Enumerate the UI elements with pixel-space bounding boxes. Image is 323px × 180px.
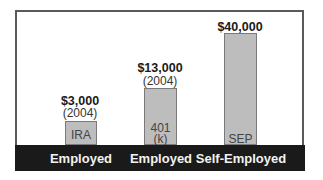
bar-label-ira: IRA: [66, 129, 96, 141]
value-label-sep: $40,000: [217, 20, 262, 34]
category-label-1: Employed: [50, 151, 112, 166]
bar-ira: IRA: [65, 121, 97, 145]
bar-401k: 401 (k): [144, 88, 177, 145]
bar-label-sep: SEP: [225, 133, 256, 145]
category-label-2: Employed: [130, 151, 192, 166]
year-label-ira: (2004): [63, 106, 98, 120]
year-label-401k: (2004): [143, 74, 178, 88]
value-label-401k: $13,000: [137, 61, 182, 75]
bar-label-401k-line2: (k): [145, 133, 176, 145]
bar-sep: SEP: [224, 33, 257, 145]
category-label-3: Self-Employed: [196, 151, 286, 166]
category-band: Employed Employed Self-Employed: [15, 145, 305, 171]
